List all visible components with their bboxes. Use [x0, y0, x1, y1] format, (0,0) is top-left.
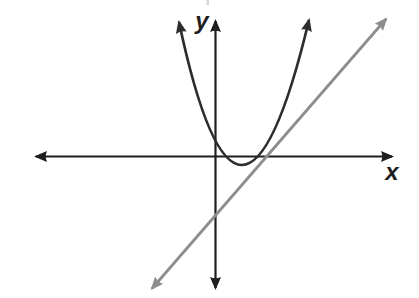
scan-artifact-tick — [207, 0, 210, 5]
parabola-curve — [179, 20, 309, 165]
coordinate-plane-graph: y x — [0, 0, 419, 298]
y-axis-label: y — [194, 7, 210, 34]
x-axis-label: x — [383, 158, 400, 185]
figure-canvas: y x — [0, 0, 419, 298]
